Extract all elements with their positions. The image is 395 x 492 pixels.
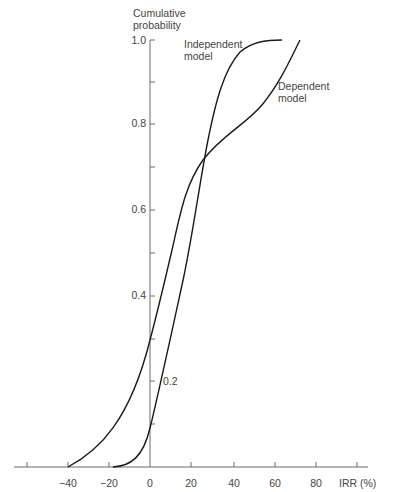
independent-model-label-line2: model <box>184 50 242 62</box>
y-ticks <box>150 40 155 424</box>
independent-model-label-line1: Independent <box>184 38 242 50</box>
y-tick-label-1-0: 1.0 <box>118 34 146 46</box>
y-axis-title-line1: Cumulative <box>133 7 186 19</box>
y-tick-label-0-6: 0.6 <box>118 203 146 215</box>
x-axis-title: IRR (%) <box>339 477 376 489</box>
y-tick-label-0-8: 0.8 <box>118 117 146 129</box>
x-tick-label-minus-20: −20 <box>94 477 124 489</box>
independent-model-label: Independent model <box>184 38 242 62</box>
y-tick-label-0-4: 0.4 <box>118 289 146 301</box>
y-axis-title-line2: probability <box>133 19 186 31</box>
cumulative-probability-chart <box>0 0 395 492</box>
dependent-model-label-line1: Dependent <box>278 80 329 92</box>
x-tick-label-80: 80 <box>301 477 331 489</box>
dependent-model-label-line2: model <box>278 92 329 104</box>
independent-model-curve <box>113 40 282 467</box>
y-tick-label-0-2: 0.2 <box>163 375 178 387</box>
dependent-model-label: Dependent model <box>278 80 329 104</box>
x-tick-label-20: 20 <box>176 477 206 489</box>
dependent-model-curve <box>68 40 300 467</box>
y-axis-title: Cumulative probability <box>133 7 186 31</box>
x-tick-label-0: 0 <box>135 477 165 489</box>
x-tick-label-60: 60 <box>260 477 290 489</box>
x-tick-label-40: 40 <box>219 477 249 489</box>
x-tick-label-minus-40: −40 <box>53 477 83 489</box>
